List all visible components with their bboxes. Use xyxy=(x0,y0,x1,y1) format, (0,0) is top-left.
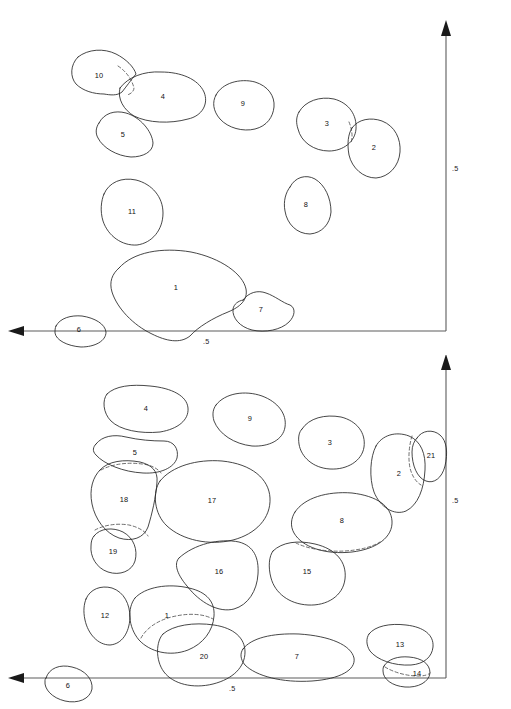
panel-bottom: .5 .5 4 9 3 5 xyxy=(0,355,511,709)
blob-label: 3 xyxy=(328,438,332,447)
cluster-blob-12[interactable]: 12 xyxy=(84,587,130,645)
panel-top-canvas: .5 .5 10 4 9 5 xyxy=(0,0,511,355)
blob-overlap-arc xyxy=(385,667,430,676)
cluster-blob-10[interactable]: 10 xyxy=(72,50,136,95)
blob-label: 3 xyxy=(325,119,329,128)
blob-label: 21 xyxy=(427,451,436,460)
cluster-blob-3[interactable]: 3 xyxy=(299,416,365,469)
blob-label: 7 xyxy=(295,652,299,661)
x-axis-arrow-icon xyxy=(8,673,24,683)
blob-label: 2 xyxy=(397,469,401,478)
blob-label: 12 xyxy=(101,611,110,620)
figure-root: .5 .5 10 4 9 5 xyxy=(0,0,511,709)
cluster-blob-11[interactable]: 11 xyxy=(101,179,163,245)
cluster-blob-1[interactable]: 1 xyxy=(130,586,214,653)
blob-label: 4 xyxy=(144,404,148,413)
cluster-blob-7[interactable]: 7 xyxy=(241,634,354,681)
blob-label: 9 xyxy=(241,99,245,108)
blob-label: 6 xyxy=(77,325,81,334)
cluster-blob-18[interactable]: 18 xyxy=(91,461,157,540)
blob-label: 2 xyxy=(372,143,376,152)
blob-label: 20 xyxy=(200,652,209,661)
cluster-blob-17[interactable]: 17 xyxy=(155,461,270,543)
blob-label: 6 xyxy=(66,681,70,690)
blob-label: 5 xyxy=(121,130,125,139)
x-axis-tick-label: .5 xyxy=(203,337,209,346)
cluster-blob-9[interactable]: 9 xyxy=(214,81,274,130)
blob-overlap-arc xyxy=(141,614,213,638)
cluster-blob-3[interactable]: 3 xyxy=(297,98,356,151)
cluster-blob-13[interactable]: 13 xyxy=(367,624,433,665)
blob-label: 13 xyxy=(396,640,405,649)
panel-bottom-canvas: .5 .5 4 9 3 5 xyxy=(0,355,511,709)
blob-label: 8 xyxy=(340,516,344,525)
y-axis-tick-label: .5 xyxy=(452,164,458,173)
blob-label: 11 xyxy=(128,207,136,216)
cluster-blob-5[interactable]: 5 xyxy=(96,112,153,157)
cluster-blob-5[interactable]: 5 xyxy=(93,436,177,473)
blob-overlap-arc xyxy=(296,542,380,551)
blob-label: 9 xyxy=(248,414,252,423)
cluster-blob-21[interactable]: 21 xyxy=(412,431,447,482)
cluster-blob-4[interactable]: 4 xyxy=(119,72,205,122)
panel-bottom-axes: .5 .5 xyxy=(8,355,458,693)
panel-top-axes: .5 .5 xyxy=(8,20,458,346)
cluster-blob-1[interactable]: 1 xyxy=(111,250,246,341)
blob-outline xyxy=(233,292,294,331)
blob-outline xyxy=(130,586,214,653)
cluster-blob-15[interactable]: 15 xyxy=(269,542,345,605)
x-axis-tick-label: .5 xyxy=(229,684,235,693)
blob-label: 1 xyxy=(174,283,178,292)
blob-label: 15 xyxy=(303,567,312,576)
blob-label: 8 xyxy=(304,200,308,209)
blob-label: 1 xyxy=(165,611,169,620)
cluster-blob-8[interactable]: 8 xyxy=(291,493,392,553)
blob-outline xyxy=(111,250,246,341)
panel-top: .5 .5 10 4 9 5 xyxy=(0,0,511,355)
blob-overlap-arc xyxy=(118,66,134,95)
y-axis-arrow-icon xyxy=(441,20,451,36)
x-axis-arrow-icon xyxy=(8,326,24,336)
cluster-blob-16[interactable]: 16 xyxy=(176,541,258,610)
cluster-blob-6[interactable]: 6 xyxy=(45,666,92,702)
blob-label: 5 xyxy=(133,448,137,457)
blob-outline xyxy=(72,50,136,95)
cluster-blob-8[interactable]: 8 xyxy=(284,177,331,234)
cluster-blob-9[interactable]: 9 xyxy=(213,393,285,446)
blob-outline xyxy=(383,657,430,687)
blob-label: 10 xyxy=(95,71,104,80)
blob-label: 4 xyxy=(161,92,165,101)
cluster-blob-4[interactable]: 4 xyxy=(104,385,188,432)
blob-label: 14 xyxy=(413,669,422,678)
blob-label: 19 xyxy=(109,547,118,556)
blob-label: 18 xyxy=(120,495,129,504)
cluster-blob-14[interactable]: 14 xyxy=(383,657,430,687)
y-axis-arrow-icon xyxy=(441,355,451,370)
y-axis-tick-label: .5 xyxy=(452,496,458,505)
cluster-blob-20[interactable]: 20 xyxy=(158,624,246,686)
blob-overlap-arc xyxy=(409,436,421,485)
cluster-blob-7[interactable]: 7 xyxy=(233,292,294,331)
blob-label: 16 xyxy=(215,567,224,576)
blob-label: 7 xyxy=(259,305,263,314)
blob-label: 17 xyxy=(208,496,217,505)
